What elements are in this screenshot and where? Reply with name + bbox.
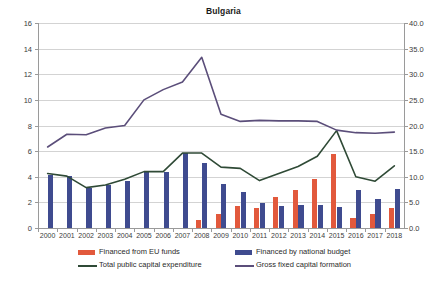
x-axis-tick (385, 229, 386, 232)
line-series-layer (38, 23, 404, 228)
x-axis-tick-label: 2018 (387, 232, 403, 239)
y-axis-left-tick (35, 177, 38, 178)
x-axis-tick (115, 229, 116, 232)
y-axis-right-tick-label: 15.0 (409, 147, 443, 156)
y-axis-right-tick-label: 40.0 (409, 19, 443, 28)
x-axis-tick (173, 229, 174, 232)
plot-area (38, 23, 404, 228)
legend-bar-swatch-icon (235, 250, 252, 255)
y-axis-left-tick (35, 100, 38, 101)
x-axis-tick (134, 229, 135, 232)
y-axis-left-tick (35, 23, 38, 24)
legend-line-swatch-icon (78, 265, 97, 267)
x-axis-tick-label: 2016 (348, 232, 364, 239)
y-axis-left-tick-label: 12 (0, 70, 32, 79)
x-axis-tick-label: 2014 (310, 232, 326, 239)
y-axis-right-tick (405, 49, 408, 50)
x-axis-tick (192, 229, 193, 232)
y-axis-left-tick (35, 49, 38, 50)
x-axis-tick-label: 2008 (194, 232, 210, 239)
y-axis-left-tick-label: 8 (0, 121, 32, 130)
x-axis-tick (231, 229, 232, 232)
legend-bar-swatch-icon (78, 250, 95, 255)
x-axis-tick-label: 2005 (136, 232, 152, 239)
y-axis-right-tick-label: 10.0 (409, 172, 443, 181)
chart-container: Bulgaria 0246810121416 0.05.010.015.020.… (0, 0, 447, 290)
x-axis-tick-label: 2011 (252, 232, 267, 239)
x-axis-tick-label: 2010 (232, 232, 248, 239)
y-axis-right-tick-label: 0.0 (409, 224, 443, 233)
y-axis-right-tick-label: 35.0 (409, 44, 443, 53)
x-axis-tick (250, 229, 251, 232)
x-axis-tick-label: 2015 (329, 232, 345, 239)
y-axis-left-tick-label: 2 (0, 198, 32, 207)
y-axis-right-tick-label: 20.0 (409, 121, 443, 130)
x-axis-tick-label: 2012 (271, 232, 287, 239)
x-axis-tick (269, 229, 270, 232)
x-axis-tick-label: 2009 (213, 232, 229, 239)
y-axis-right-tick (405, 177, 408, 178)
line-series (48, 57, 395, 147)
x-axis-tick (154, 229, 155, 232)
y-axis-left-tick-label: 4 (0, 172, 32, 181)
legend-label: Total public capital expenditure (99, 260, 202, 269)
y-axis-left-tick (35, 202, 38, 203)
x-axis-tick (57, 229, 58, 232)
legend-label: Financed from EU funds (99, 247, 180, 256)
x-axis-tick-label: 2001 (59, 232, 75, 239)
legend-label: Financed by national budget (256, 247, 350, 256)
y-axis-right-tick (405, 126, 408, 127)
x-axis-tick-label: 2004 (117, 232, 133, 239)
y-axis-right-tick (405, 23, 408, 24)
y-axis-right-tick-label: 30.0 (409, 70, 443, 79)
x-axis-tick (308, 229, 309, 232)
x-axis-tick (327, 229, 328, 232)
y-axis-left-line (38, 23, 39, 229)
x-axis-tick (346, 229, 347, 232)
x-axis-tick-label: 2007 (175, 232, 191, 239)
x-axis-tick-label: 2003 (98, 232, 114, 239)
y-axis-right-tick (405, 228, 408, 229)
y-axis-left-tick-label: 0 (0, 224, 32, 233)
legend-label: Gross fixed capital formation (256, 260, 351, 269)
y-axis-right-tick (405, 151, 408, 152)
y-axis-left-tick (35, 126, 38, 127)
y-axis-right-tick (405, 100, 408, 101)
x-axis-tick-label: 2000 (40, 232, 56, 239)
x-axis-tick-label: 2017 (367, 232, 383, 239)
x-axis-tick (96, 229, 97, 232)
x-axis-tick (77, 229, 78, 232)
y-axis-right-tick-label: 5.0 (409, 198, 443, 207)
y-axis-left-tick-label: 16 (0, 19, 32, 28)
x-axis-tick-label: 2002 (78, 232, 94, 239)
chart-title: Bulgaria (0, 6, 447, 16)
x-axis-tick (288, 229, 289, 232)
y-axis-left-tick-label: 10 (0, 95, 32, 104)
line-series (48, 131, 395, 188)
legend-line-swatch-icon (235, 265, 254, 267)
chart-legend: Financed from EU fundsFinanced by nation… (0, 247, 447, 281)
x-axis-line (38, 228, 405, 229)
x-axis-tick (365, 229, 366, 232)
y-axis-left-tick (35, 74, 38, 75)
y-axis-right-tick (405, 202, 408, 203)
y-axis-right-tick (405, 74, 408, 75)
y-axis-left-tick-label: 6 (0, 147, 32, 156)
x-axis-tick-label: 2006 (155, 232, 171, 239)
y-axis-left-tick-label: 14 (0, 44, 32, 53)
x-axis-tick (38, 229, 39, 232)
y-axis-right-tick-label: 25.0 (409, 95, 443, 104)
y-axis-left-tick (35, 151, 38, 152)
x-axis-tick (211, 229, 212, 232)
x-axis-tick-label: 2013 (290, 232, 306, 239)
